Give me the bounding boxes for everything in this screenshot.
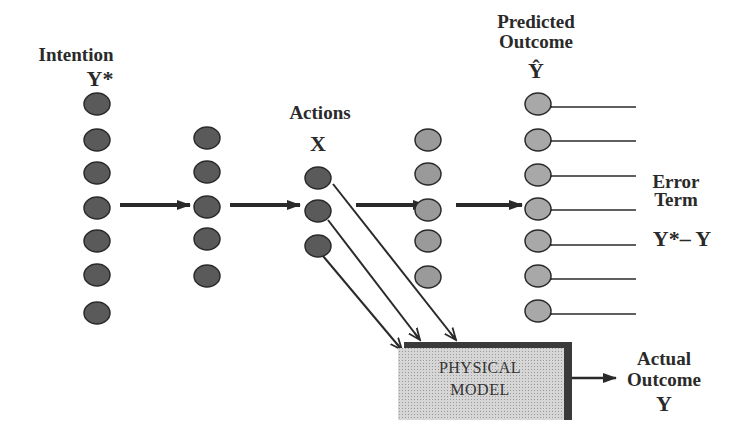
intention-node (84, 230, 110, 252)
actual-symbol: Y (634, 393, 694, 415)
physical-model-label: PHYSICAL MODEL (400, 357, 560, 401)
hidden-2-node (415, 266, 441, 288)
hidden-1-node (194, 196, 220, 218)
predicted-title-2: Outcome (480, 32, 592, 51)
intention-node (84, 264, 110, 286)
actions-title: Actions (270, 103, 370, 122)
intention-symbol: Y* (70, 68, 130, 90)
predicted-outcome-node (525, 93, 551, 115)
intention-node (84, 197, 110, 219)
hidden-1-node (194, 228, 220, 250)
predicted-title-1: Predicted (480, 12, 592, 31)
predicted-outcome-node (525, 129, 551, 151)
predicted-outcome-node (525, 230, 551, 252)
predicted-outcome-node (525, 265, 551, 287)
predicted-outcome-node (525, 300, 551, 322)
error-title-2: Term (636, 190, 716, 209)
hidden-1-node (194, 127, 220, 149)
hidden-2-node (415, 129, 441, 151)
hidden-2-node (415, 163, 441, 185)
hidden-2-node (415, 199, 441, 221)
intention-node (84, 162, 110, 184)
network-nodes (84, 93, 551, 324)
actions-symbol: X (290, 133, 346, 155)
hidden-1-node (194, 265, 220, 287)
intention-node (84, 302, 110, 324)
intention-title: Intention (14, 45, 138, 64)
intention-node (84, 129, 110, 151)
actual-title-2: Outcome (614, 370, 714, 389)
actions-node (305, 235, 331, 257)
hidden-2-node (415, 230, 441, 252)
actual-title-1: Actual (614, 349, 714, 368)
actions-node (305, 200, 331, 222)
error-formula: Y*– Y (632, 228, 732, 250)
predicted-outcome-node (525, 164, 551, 186)
predicted-outcome-node (525, 198, 551, 220)
physical-model-line-2: MODEL (400, 379, 560, 401)
intention-node (84, 93, 110, 115)
hidden-1-node (194, 161, 220, 183)
physical-model-line-1: PHYSICAL (400, 357, 560, 379)
error-term-arrows (551, 107, 636, 314)
predicted-symbol: Ŷ (508, 60, 564, 82)
actions-node (305, 167, 331, 189)
